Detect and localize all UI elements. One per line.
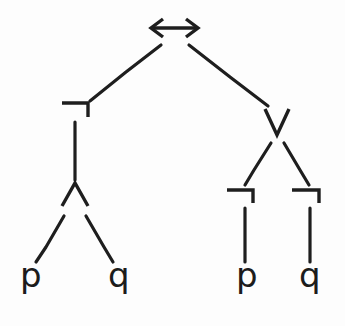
leaf-label-left-q: q <box>108 258 130 292</box>
right-disjunction-glyph <box>265 109 289 135</box>
parse-tree-diagram: p q p q <box>0 0 345 326</box>
leaf-label-right-q: q <box>299 258 321 292</box>
edge-or-to-left-not <box>245 143 271 185</box>
edge-root-to-right-or <box>189 45 268 106</box>
biconditional-glyph <box>151 19 198 37</box>
left-conjunction-glyph <box>62 183 88 206</box>
right-left-negation-glyph <box>227 190 253 203</box>
tree-graphics <box>0 0 345 326</box>
edge-root-to-left-not <box>90 45 161 101</box>
right-right-negation-glyph <box>292 190 319 203</box>
leaf-label-left-p: p <box>20 258 42 292</box>
leaf-label-right-p: p <box>236 258 258 292</box>
left-negation-glyph <box>62 103 88 117</box>
edge-or-to-right-not <box>284 143 309 185</box>
